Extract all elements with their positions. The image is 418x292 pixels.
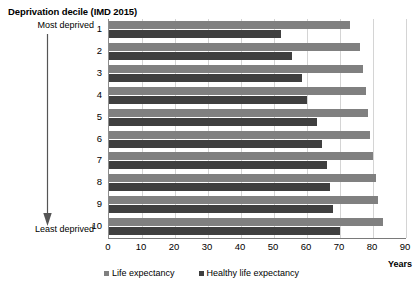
bar-group <box>109 43 406 65</box>
bar-healthy-life-expectancy <box>109 52 292 60</box>
x-tick-label: 60 <box>291 241 321 252</box>
most-deprived-label: Most deprived <box>10 20 94 30</box>
bar-healthy-life-expectancy <box>109 183 330 191</box>
chart-legend: Life expectancyHealthy life expectancy <box>104 266 334 280</box>
bar-healthy-life-expectancy <box>109 118 317 126</box>
legend-label: Life expectancy <box>112 268 175 278</box>
bar-group <box>109 152 406 174</box>
bar-healthy-life-expectancy <box>109 96 307 104</box>
x-axis-title: Years <box>388 259 412 269</box>
bar-group <box>109 109 406 131</box>
x-tick-label: 80 <box>357 241 387 252</box>
bar-life-expectancy <box>109 174 376 182</box>
bar-life-expectancy <box>109 43 360 51</box>
legend-swatch-icon <box>199 271 204 276</box>
x-tick-label: 10 <box>126 241 156 252</box>
category-tick-label: 10 <box>84 221 102 231</box>
category-tick-label: 4 <box>84 90 102 100</box>
category-tick-label: 9 <box>84 199 102 209</box>
x-tick-label: 40 <box>225 241 255 252</box>
bar-healthy-life-expectancy <box>109 30 281 38</box>
bar-life-expectancy <box>109 87 366 95</box>
bar-life-expectancy <box>109 131 370 139</box>
bar-life-expectancy <box>109 109 368 117</box>
category-tick-label: 2 <box>84 46 102 56</box>
category-tick-label: 7 <box>84 155 102 165</box>
gridline <box>406 19 407 238</box>
bar-healthy-life-expectancy <box>109 205 333 213</box>
bar-healthy-life-expectancy <box>109 140 322 148</box>
x-tick-label: 30 <box>192 241 222 252</box>
category-tick-label: 5 <box>84 112 102 122</box>
x-tick-label: 90 <box>390 241 418 252</box>
x-tick-label: 50 <box>258 241 288 252</box>
legend-label: Healthy life expectancy <box>207 268 300 278</box>
legend-item: Life expectancy <box>104 268 175 278</box>
category-tick-label: 3 <box>84 68 102 78</box>
bar-group <box>109 65 406 87</box>
bar-life-expectancy <box>109 218 383 226</box>
bar-life-expectancy <box>109 152 373 160</box>
category-axis-labels: 12345678910 <box>84 19 102 238</box>
bar-group <box>109 131 406 153</box>
category-tick-label: 6 <box>84 134 102 144</box>
bar-life-expectancy <box>109 21 350 29</box>
bar-group <box>109 196 406 218</box>
bar-group <box>109 21 406 43</box>
bar-life-expectancy <box>109 196 378 204</box>
bar-healthy-life-expectancy <box>109 227 340 235</box>
bar-group <box>109 174 406 196</box>
down-arrow-icon <box>42 34 53 226</box>
plot-area <box>108 19 406 239</box>
chart-title: Deprivation decile (IMD 2015) <box>8 6 137 17</box>
bar-life-expectancy <box>109 65 363 73</box>
bar-healthy-life-expectancy <box>109 161 327 169</box>
x-tick-label: 70 <box>324 241 354 252</box>
bar-group <box>109 218 406 240</box>
category-tick-label: 1 <box>84 24 102 34</box>
legend-item: Healthy life expectancy <box>199 268 300 278</box>
x-axis-labels: 0102030405060708090 <box>108 241 405 255</box>
x-tick-label: 20 <box>159 241 189 252</box>
bar-group <box>109 87 406 109</box>
x-tick-label: 0 <box>93 241 123 252</box>
legend-swatch-icon <box>104 271 109 276</box>
bar-healthy-life-expectancy <box>109 74 302 82</box>
category-tick-label: 8 <box>84 177 102 187</box>
chart-container: Deprivation decile (IMD 2015) Most depri… <box>0 0 418 292</box>
